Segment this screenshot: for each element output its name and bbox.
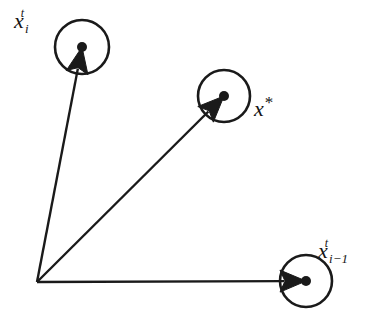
node-xi-minus-1-dot (301, 276, 311, 286)
node-x-star-dot (219, 91, 229, 101)
node-xi-t-dot (77, 42, 87, 52)
node-xi-minus-1-label-sup: t (325, 236, 328, 250)
node-xi-minus-1-label: xti−1 (318, 240, 350, 262)
node-x-star-label-base: x (254, 96, 264, 121)
figure-background (0, 0, 382, 326)
node-xi-t-label-sup: t (21, 6, 24, 20)
arrow-to-xi-minus-1-shaft (37, 281, 284, 282)
figure-root: xti x* xti−1 (0, 0, 382, 326)
diagram-canvas (0, 0, 382, 326)
node-xi-minus-1-label-sub: i−1 (329, 251, 348, 266)
node-xi-t-label-sub: i (25, 21, 29, 36)
node-x-star-label-sup: * (265, 93, 274, 112)
node-xi-t-label: xti (14, 10, 31, 32)
node-x-star-label: x* (254, 98, 272, 120)
